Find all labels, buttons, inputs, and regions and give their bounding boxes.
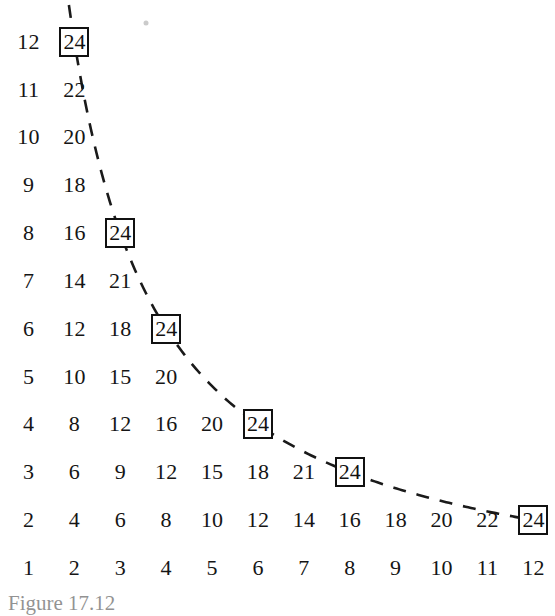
boxed-value-8x3: 24 xyxy=(105,218,135,248)
boxed-value-2x12: 24 xyxy=(518,505,548,535)
boxed-value-4x6: 24 xyxy=(243,409,273,439)
boxed-value-3x8: 24 xyxy=(335,457,365,487)
boxed-value-12x2: 24 xyxy=(59,27,89,57)
boxed-value-6x4: 24 xyxy=(151,314,181,344)
